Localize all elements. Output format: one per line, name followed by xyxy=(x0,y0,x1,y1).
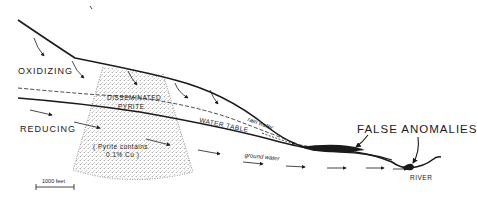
disseminated-label: DISSEMINATED xyxy=(107,95,161,102)
oxidizing-zone-label: OXIDIZING xyxy=(18,67,73,76)
reducing-zone-label: REDUCING xyxy=(20,125,76,134)
false-anomalies-leader-2 xyxy=(413,137,418,163)
river-label: RIVER xyxy=(410,175,432,182)
scale-label: 1000 feet xyxy=(42,179,65,185)
stray-mark xyxy=(90,6,92,9)
pyrite-note-line2: 0.1% Cu ) xyxy=(106,152,139,159)
pyrite-note-line1: ( Pyrite contains xyxy=(93,144,148,151)
false-anomalies-leader-1 xyxy=(356,135,368,147)
false-anomalies-label: FALSE ANOMALIES xyxy=(357,124,477,136)
scale-bar xyxy=(36,184,74,190)
false-anomaly-deposit-slope xyxy=(300,145,365,153)
pyrite-label: PYRITE xyxy=(118,104,144,111)
